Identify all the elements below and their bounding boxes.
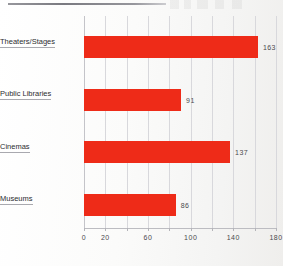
x-tick-180 [276,228,277,231]
category-label-cinemas: Cinemas [0,142,30,153]
x-tick-label-100: 100 [184,234,197,241]
x-axis-line [84,228,276,229]
bar-row-public-libraries: 91 [84,89,276,111]
category-label-theaters-stages: Theaters/Stages [0,37,55,48]
bar-chart-figure: Theaters/Stages Public Libraries Cinemas… [0,0,283,266]
title-underline-rule [8,3,166,5]
x-tick-0 [84,228,85,231]
x-tick-80 [169,228,170,231]
x-tick-label-180: 180 [269,234,282,241]
x-tick-20 [105,228,106,231]
bar-museums[interactable] [84,194,176,216]
bar-cinemas[interactable] [84,141,230,163]
bar-row-cinemas: 137 [84,141,276,163]
category-label-public-libraries: Public Libraries [0,89,51,100]
bar-theaters-stages[interactable] [84,36,258,58]
category-label-museums: Museums [0,194,33,205]
bar-value-theaters-stages: 163 [263,44,276,51]
cropped-title-ghost-text [170,0,280,9]
plot-area: 163 91 137 86 [84,16,276,228]
bar-value-museums: 86 [181,202,190,209]
x-tick-120 [212,228,213,231]
x-tick-label-20: 20 [101,234,110,241]
x-tick-label-60: 60 [144,234,153,241]
bar-public-libraries[interactable] [84,89,181,111]
x-tick-140 [233,228,234,231]
bar-row-theaters-stages: 163 [84,36,276,58]
bar-value-cinemas: 137 [235,149,248,156]
x-tick-40 [127,228,128,231]
x-tick-60 [148,228,149,231]
x-tick-100 [191,228,192,231]
x-tick-label-0: 0 [82,234,86,241]
gridline-180 [276,16,277,228]
x-tick-160 [255,228,256,231]
x-tick-label-140: 140 [227,234,240,241]
bar-value-public-libraries: 91 [186,97,195,104]
bar-row-museums: 86 [84,194,276,216]
